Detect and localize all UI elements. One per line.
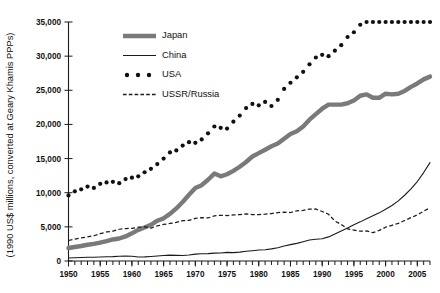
- chart-series-group: [66, 20, 432, 258]
- x-tick-label: 1985: [281, 270, 300, 279]
- series-data-point-usa: [250, 102, 254, 106]
- series-data-point-usa: [263, 100, 267, 104]
- y-axis-title-text: (1990 US$ millions, converted at Geary K…: [5, 33, 15, 258]
- series-data-point-usa: [428, 20, 432, 24]
- series-line-japan: [69, 77, 431, 248]
- series-data-point-usa: [200, 137, 204, 141]
- series-data-point-usa: [390, 20, 394, 24]
- series-data-point-usa: [79, 187, 83, 191]
- x-tick-label: 1995: [345, 270, 364, 279]
- series-data-point-usa: [276, 98, 280, 102]
- series-data-point-usa: [288, 81, 292, 85]
- series-data-point-usa: [130, 176, 134, 180]
- x-tick-label: 1975: [218, 270, 237, 279]
- series-data-point-usa: [377, 20, 381, 24]
- series-data-point-usa: [66, 193, 70, 197]
- line-chart: (1990 US$ millions, converted at Geary K…: [0, 0, 440, 293]
- series-data-point-usa: [257, 103, 261, 107]
- series-data-point-usa: [238, 113, 242, 117]
- series-data-point-usa: [155, 162, 159, 166]
- series-data-point-usa: [422, 20, 426, 24]
- legend-swatch-dots-icon: [125, 73, 129, 77]
- series-data-point-usa: [333, 49, 337, 53]
- series-data-point-usa: [143, 170, 147, 174]
- series-data-point-usa: [371, 20, 375, 24]
- y-tick-label: 15,000: [36, 155, 61, 164]
- x-tick-label: 1970: [186, 270, 205, 279]
- series-data-point-usa: [358, 23, 362, 27]
- series-data-point-usa: [269, 104, 273, 108]
- chart-legend: JapanChinaUSAUSSR/Russia: [123, 29, 220, 99]
- y-tick-label: 30,000: [36, 52, 61, 61]
- series-data-point-usa: [301, 70, 305, 74]
- series-data-point-usa: [339, 43, 343, 47]
- legend-label: USA: [162, 68, 182, 79]
- x-tick-label: 2005: [408, 270, 427, 279]
- x-tick-label: 1990: [313, 270, 332, 279]
- legend-label: China: [162, 49, 187, 60]
- x-tick-label: 1965: [155, 270, 174, 279]
- series-data-point-usa: [320, 53, 324, 57]
- legend-item-ussr-russia: USSR/Russia: [123, 88, 220, 99]
- x-tick-label: 1955: [91, 270, 110, 279]
- legend-item-usa: USA: [125, 68, 182, 79]
- series-dots-usa: [66, 20, 432, 198]
- y-tick-label: 10,000: [36, 189, 61, 198]
- series-data-point-usa: [415, 20, 419, 24]
- series-data-point-usa: [403, 20, 407, 24]
- y-tick-label: 0: [56, 257, 61, 266]
- series-data-point-usa: [92, 186, 96, 190]
- series-data-point-usa: [307, 62, 311, 66]
- series-data-point-usa: [104, 180, 108, 184]
- series-data-point-usa: [98, 182, 102, 186]
- legend-swatch-dots-icon: [147, 73, 151, 77]
- legend-label: Japan: [162, 29, 188, 40]
- series-data-point-usa: [225, 126, 229, 130]
- series-line-china: [69, 163, 431, 258]
- x-tick-label: 2000: [376, 270, 395, 279]
- x-tick-label: 1950: [59, 270, 78, 279]
- series-data-point-usa: [168, 150, 172, 154]
- y-tick-label: 20,000: [36, 120, 61, 129]
- series-data-point-usa: [212, 124, 216, 128]
- series-data-point-usa: [117, 181, 121, 185]
- x-tick-label: 1980: [250, 270, 269, 279]
- series-data-point-usa: [85, 184, 89, 188]
- series-data-point-usa: [282, 87, 286, 91]
- series-data-point-usa: [314, 55, 318, 59]
- series-data-point-usa: [295, 75, 299, 79]
- series-data-point-usa: [181, 144, 185, 148]
- series-data-point-usa: [193, 141, 197, 145]
- legend-item-china: China: [123, 49, 187, 60]
- series-data-point-usa: [136, 174, 140, 178]
- series-data-point-usa: [219, 126, 223, 130]
- series-data-point-usa: [162, 156, 166, 160]
- series-data-point-usa: [345, 35, 349, 39]
- series-data-point-usa: [187, 140, 191, 144]
- series-data-point-usa: [352, 30, 356, 34]
- legend-label: USSR/Russia: [162, 88, 220, 99]
- chart-axes: [69, 22, 431, 261]
- series-data-point-usa: [111, 180, 115, 184]
- series-data-point-usa: [206, 131, 210, 135]
- series-data-point-usa: [149, 167, 153, 171]
- y-tick-label: 25,000: [36, 86, 61, 95]
- legend-swatch-dots-icon: [136, 73, 140, 77]
- series-data-point-usa: [409, 20, 413, 24]
- series-data-point-usa: [396, 20, 400, 24]
- series-data-point-usa: [174, 148, 178, 152]
- series-data-point-usa: [123, 177, 127, 181]
- series-data-point-usa: [384, 20, 388, 24]
- x-axis-ticks: 1950195519601965197019751980198519901995…: [59, 261, 426, 279]
- series-data-point-usa: [73, 189, 77, 193]
- y-tick-label: 35,000: [36, 18, 61, 27]
- legend-item-japan: Japan: [123, 29, 188, 40]
- chart-container: (1990 US$ millions, converted at Geary K…: [0, 0, 440, 293]
- series-data-point-usa: [231, 120, 235, 124]
- series-data-point-usa: [326, 54, 330, 58]
- x-axis-minor-ticks: [69, 261, 431, 265]
- series-data-point-usa: [364, 20, 368, 24]
- y-tick-label: 5,000: [41, 223, 62, 232]
- y-axis-ticks: 05,00010,00015,00020,00025,00030,00035,0…: [36, 18, 73, 266]
- series-data-point-usa: [244, 106, 248, 110]
